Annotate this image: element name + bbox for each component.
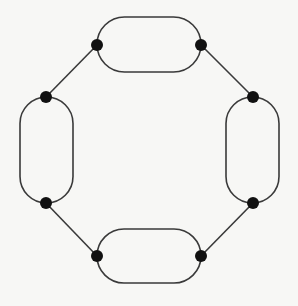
edge-n4-n5: [201, 203, 253, 256]
vertex-n2: [195, 39, 207, 51]
stadium-double-edge-top: [97, 17, 201, 72]
stadium-double-edge-left: [20, 97, 73, 203]
double-edge-group: [20, 17, 279, 283]
vertex-n1: [91, 39, 103, 51]
vertex-n3: [247, 91, 259, 103]
single-edge-group: [46, 45, 253, 256]
edge-n8-n1: [46, 45, 97, 97]
vertex-n5: [195, 250, 207, 262]
vertex-n8: [40, 91, 52, 103]
edge-n2-n3: [201, 45, 253, 97]
cycle-graph-diagram: [0, 0, 298, 306]
stadium-double-edge-bottom: [97, 229, 201, 283]
stadium-double-edge-right: [226, 97, 279, 203]
vertex-n7: [40, 197, 52, 209]
vertex-n4: [247, 197, 259, 209]
edge-n6-n7: [46, 203, 97, 256]
vertex-n6: [91, 250, 103, 262]
